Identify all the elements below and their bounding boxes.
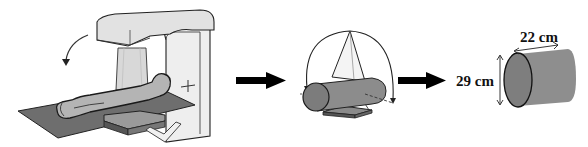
phantom-illustration: 22 cm 29 cm [456, 29, 576, 107]
collimator-head [116, 48, 148, 90]
length-label: 22 cm [520, 29, 558, 45]
diagram-canvas: 22 cm 29 cm [0, 0, 588, 147]
linac-illustration [18, 10, 214, 142]
diameter-label: 29 cm [456, 73, 494, 89]
rotation-arrow-icon [62, 35, 88, 66]
diameter-dimension-icon [497, 55, 503, 105]
cylinder-phantom-arc [300, 78, 393, 111]
cylinder-phantom [504, 49, 576, 107]
flow-arrow-1-icon [236, 72, 286, 89]
flow-arrow-2-icon [398, 72, 446, 89]
arc-geometry-illustration [300, 31, 396, 118]
